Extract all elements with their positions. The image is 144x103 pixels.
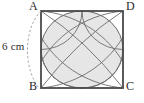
vertex-label-a: A	[29, 0, 38, 12]
dimension-leader-arc	[27, 11, 41, 87]
vertex-label-c: C	[126, 80, 134, 92]
vertex-label-d: D	[126, 0, 135, 12]
geometry-figure: A D B C 6 cm	[0, 0, 144, 103]
side-length-label: 6 cm	[2, 41, 25, 52]
vertex-label-b: B	[29, 80, 37, 92]
